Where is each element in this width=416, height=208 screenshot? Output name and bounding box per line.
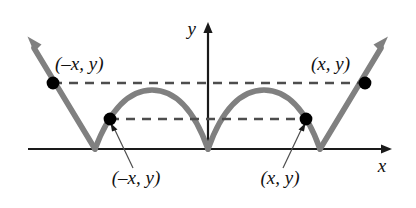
graph-canvas: (–x, y) (x, y) (–x, y) (x, y) y x: [0, 0, 416, 208]
point-inner-right: [300, 113, 313, 126]
text-labels-group: (–x, y) (x, y) (–x, y) (x, y) y x: [55, 18, 387, 189]
label-top-right: (x, y): [311, 53, 350, 75]
x-axis-label: x: [377, 155, 387, 176]
y-axis-label: y: [186, 18, 197, 39]
y-axis-arrowhead: [203, 22, 212, 33]
even-function-graph-figure: (–x, y) (x, y) (–x, y) (x, y) y x: [0, 0, 416, 208]
curve-left-arrowhead: [28, 37, 42, 53]
point-outer-left: [47, 77, 60, 90]
point-outer-right: [359, 77, 372, 90]
label-bottom-left: (–x, y): [112, 167, 161, 189]
x-axis-arrowhead: [381, 145, 392, 154]
label-top-left: (–x, y): [55, 53, 104, 75]
curve-right-arrowhead: [374, 37, 389, 53]
label-bottom-right: (x, y): [260, 167, 299, 189]
point-inner-left: [104, 113, 117, 126]
